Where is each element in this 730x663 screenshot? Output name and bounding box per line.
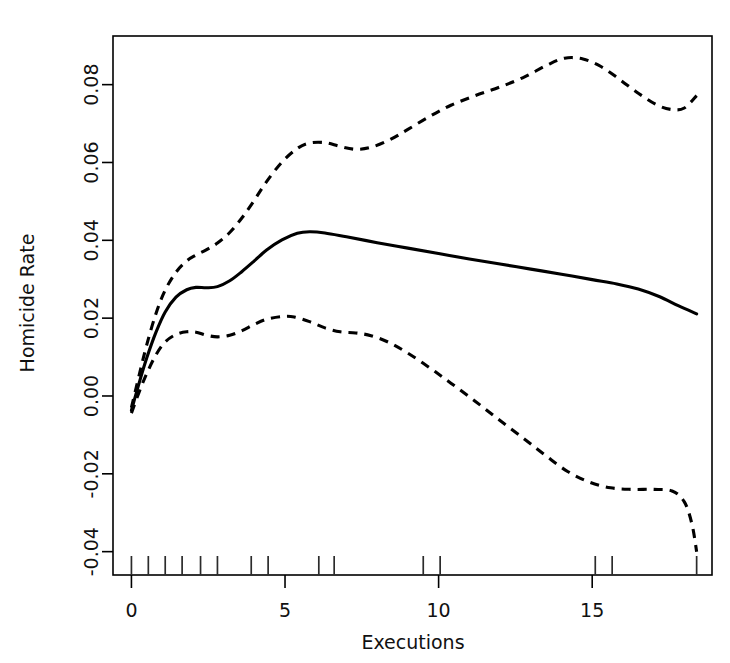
y-tick-label: 0.04 xyxy=(81,219,103,261)
y-tick-label: -0.02 xyxy=(81,449,103,498)
y-tick-label: 0.00 xyxy=(81,375,103,417)
x-tick-label: 5 xyxy=(279,599,291,621)
chart-figure: -0.04-0.020.000.020.040.060.08 051015 Ex… xyxy=(0,0,730,663)
y-tick-label: 0.02 xyxy=(81,297,103,339)
plot-panel-background xyxy=(0,0,730,663)
y-tick-label: 0.06 xyxy=(81,141,103,183)
x-tick-label: 0 xyxy=(125,599,137,621)
y-tick-label: 0.08 xyxy=(81,63,103,105)
x-tick-label: 10 xyxy=(427,599,451,621)
homicide-rate-vs-executions-chart: -0.04-0.020.000.020.040.060.08 051015 Ex… xyxy=(0,0,730,663)
y-tick-label: -0.04 xyxy=(81,527,103,576)
x-tick-label: 15 xyxy=(580,599,604,621)
y-axis-title: Homicide Rate xyxy=(16,234,38,373)
x-axis-title: Executions xyxy=(361,631,464,653)
